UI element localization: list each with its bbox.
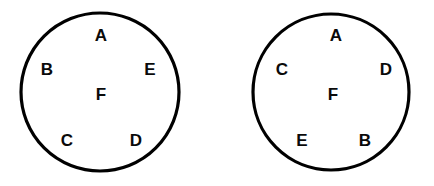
label-left-circle-center: F bbox=[96, 85, 106, 104]
circles-diagram-svg: ABEFCDACDFEB bbox=[0, 0, 434, 186]
figure-left-circle: ABEFCD bbox=[21, 13, 179, 171]
label-left-circle-bottom-left: C bbox=[61, 131, 73, 150]
label-left-circle-right: E bbox=[144, 60, 155, 79]
label-right-circle-top: A bbox=[330, 26, 342, 45]
label-left-circle-left: B bbox=[41, 60, 53, 79]
label-right-circle-left: C bbox=[276, 60, 288, 79]
label-left-circle-top: A bbox=[95, 26, 107, 45]
label-right-circle-right: D bbox=[380, 60, 392, 79]
label-right-circle-center: F bbox=[328, 85, 338, 104]
diagram-canvas: ABEFCDACDFEB bbox=[0, 0, 434, 186]
label-right-circle-bottom-right: B bbox=[359, 131, 371, 150]
figure-right-circle: ACDFEB bbox=[253, 14, 409, 170]
label-left-circle-bottom-right: D bbox=[130, 131, 142, 150]
label-right-circle-bottom-left: E bbox=[296, 131, 307, 150]
